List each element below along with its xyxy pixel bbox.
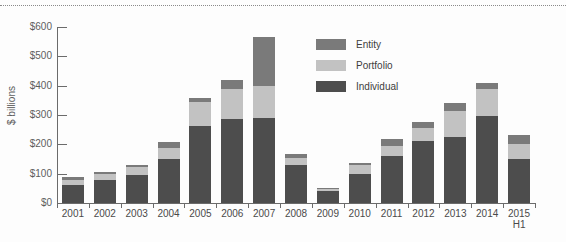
y-axis-label-slot: $200 [0,139,52,149]
legend-item[interactable]: Individual [316,80,466,93]
bar-group[interactable] [285,154,307,203]
bar-segment-individual[interactable] [189,126,211,203]
bar-segment-individual[interactable] [508,159,530,203]
bar-segment-portfolio[interactable] [285,158,307,165]
y-axis-label-slot: $0 [0,198,52,208]
y-axis-label-slot: $600 [0,22,52,32]
y-axis-label-slot: $500 [0,51,52,61]
bar-group[interactable] [349,163,371,203]
chart-legend: EntityPortfolioIndividual [316,38,466,101]
y-axis-tick-label: $200 [6,139,52,149]
plot-area: $0$100$200$300$400$500$600 $ billions 20… [0,0,566,242]
bar-group[interactable] [189,98,211,203]
bar-group[interactable] [317,188,339,203]
y-axis-label-slot: $100 [0,169,52,179]
bar-group[interactable] [126,165,148,203]
bar-segment-individual[interactable] [62,185,84,203]
y-axis-title: $ billions [6,71,17,141]
bar-segment-portfolio[interactable] [444,111,466,137]
bar-group[interactable] [412,122,434,203]
bar-segment-individual[interactable] [317,191,339,203]
bar-segment-portfolio[interactable] [412,128,434,141]
bar-group[interactable] [253,37,275,203]
y-axis-tick-label: $600 [6,22,52,32]
bar-segment-entity[interactable] [444,103,466,110]
bar-segment-portfolio[interactable] [189,102,211,126]
bar-segment-individual[interactable] [126,175,148,203]
bar-group[interactable] [476,83,498,203]
bar-group[interactable] [158,142,180,203]
x-axis-tick-label-line1: 2015 [498,208,540,219]
legend-swatch-entity [316,39,346,50]
legend-label: Portfolio [356,60,393,71]
y-axis-tick-label: $0 [6,198,52,208]
bar-segment-individual[interactable] [349,174,371,203]
bar-segment-portfolio[interactable] [158,148,180,159]
legend-label: Individual [356,81,398,92]
bar-segment-entity[interactable] [253,37,275,85]
bar-segment-portfolio[interactable] [476,89,498,117]
bar-series-container [57,0,535,242]
bar-group[interactable] [508,135,530,203]
bar-segment-portfolio[interactable] [253,86,275,118]
legend-item[interactable]: Portfolio [316,59,466,72]
legend-label: Entity [356,39,381,50]
bar-segment-individual[interactable] [158,159,180,203]
bar-segment-portfolio[interactable] [221,89,243,118]
x-axis-tick-label-line2: H1 [498,219,540,230]
legend-swatch-portfolio [316,60,346,71]
bar-segment-individual[interactable] [412,141,434,203]
bar-group[interactable] [381,139,403,203]
y-axis-tick-label: $500 [6,51,52,61]
bar-segment-portfolio[interactable] [349,165,371,173]
bar-segment-individual[interactable] [285,165,307,203]
x-axis-tick-label: 2015H1 [498,208,540,230]
bar-segment-individual[interactable] [253,118,275,203]
bar-segment-entity[interactable] [508,135,530,144]
legend-item[interactable]: Entity [316,38,466,51]
bar-group[interactable] [94,172,116,203]
bar-segment-individual[interactable] [476,116,498,203]
bar-segment-portfolio[interactable] [381,146,403,156]
chart-page: $0$100$200$300$400$500$600 $ billions 20… [0,0,566,242]
bar-segment-individual[interactable] [444,137,466,203]
bar-group[interactable] [62,177,84,203]
bar-segment-individual[interactable] [94,180,116,203]
legend-swatch-individual [316,81,346,92]
bar-segment-entity[interactable] [221,80,243,89]
bar-group[interactable] [444,103,466,203]
bar-segment-portfolio[interactable] [508,144,530,159]
bar-segment-individual[interactable] [221,119,243,203]
bar-segment-portfolio[interactable] [126,167,148,174]
y-axis-tick-label: $100 [6,169,52,179]
bar-group[interactable] [221,80,243,203]
bar-segment-individual[interactable] [381,156,403,203]
